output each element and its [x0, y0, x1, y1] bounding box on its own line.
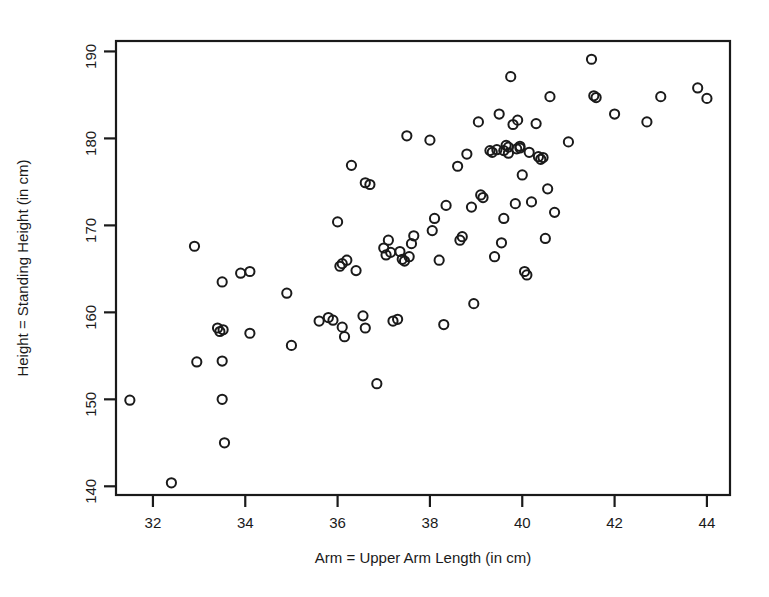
- data-point: [587, 55, 596, 64]
- data-point: [245, 267, 254, 276]
- data-point: [441, 201, 450, 210]
- data-point: [495, 109, 504, 118]
- y-tick-label-160: 160: [82, 305, 99, 330]
- data-point: [361, 323, 370, 332]
- data-point: [499, 214, 508, 223]
- data-point: [532, 119, 541, 128]
- x-tick-label-40: 40: [514, 514, 531, 531]
- data-point: [490, 252, 499, 261]
- data-point: [428, 226, 437, 235]
- data-point: [218, 277, 227, 286]
- scatter-plot-figure: 140150160170180190 32343638404244 Arm = …: [0, 0, 769, 597]
- data-point: [245, 329, 254, 338]
- data-point: [167, 478, 176, 487]
- data-point: [702, 94, 711, 103]
- data-points: [125, 55, 711, 488]
- data-point: [425, 136, 434, 145]
- data-point: [372, 379, 381, 388]
- data-point: [384, 236, 393, 245]
- plot-canvas: 140150160170180190 32343638404244 Arm = …: [0, 0, 769, 597]
- y-tick-label-190: 190: [82, 44, 99, 69]
- data-point: [693, 83, 702, 92]
- y-tick-label-150: 150: [82, 392, 99, 417]
- data-point: [282, 289, 291, 298]
- y-axis-tick-labels: 140150160170180190: [82, 44, 99, 504]
- data-point: [430, 214, 439, 223]
- data-point: [469, 299, 478, 308]
- data-point: [218, 356, 227, 365]
- data-point: [462, 149, 471, 158]
- plot-frame-box: [116, 41, 730, 495]
- data-point: [340, 332, 349, 341]
- y-axis-title: Height = Standing Height (in cm): [14, 159, 31, 376]
- x-tick-label-36: 36: [329, 514, 346, 531]
- data-point: [218, 395, 227, 404]
- y-tick-label-140: 140: [82, 479, 99, 504]
- x-axis-tickmarks: [153, 495, 707, 507]
- y-axis-tickmarks: [104, 51, 116, 486]
- data-point: [315, 316, 324, 325]
- x-axis-tick-labels: 32343638404244: [145, 514, 716, 531]
- data-point: [453, 162, 462, 171]
- x-tick-label-42: 42: [606, 514, 623, 531]
- data-point: [287, 341, 296, 350]
- data-point: [467, 203, 476, 212]
- x-tick-label-32: 32: [145, 514, 162, 531]
- data-point: [610, 109, 619, 118]
- data-point: [351, 266, 360, 275]
- data-point: [236, 269, 245, 278]
- data-point: [335, 262, 344, 271]
- data-point: [402, 131, 411, 140]
- data-point: [190, 242, 199, 251]
- data-point: [358, 311, 367, 320]
- data-point: [497, 238, 506, 247]
- data-point: [511, 199, 520, 208]
- x-axis-title: Arm = Upper Arm Length (in cm): [315, 549, 531, 566]
- data-point: [220, 438, 229, 447]
- data-point: [439, 320, 448, 329]
- data-point: [192, 357, 201, 366]
- x-tick-label-44: 44: [699, 514, 716, 531]
- axis-frame: [116, 41, 730, 495]
- data-point: [525, 148, 534, 157]
- data-point: [656, 92, 665, 101]
- x-tick-label-38: 38: [422, 514, 439, 531]
- data-point: [527, 197, 536, 206]
- data-point: [518, 170, 527, 179]
- data-point: [564, 137, 573, 146]
- data-point: [543, 184, 552, 193]
- data-point: [541, 234, 550, 243]
- data-point: [347, 161, 356, 170]
- data-point: [338, 323, 347, 332]
- data-point: [478, 193, 487, 202]
- x-tick-label-34: 34: [237, 514, 254, 531]
- data-point: [550, 208, 559, 217]
- data-point: [435, 256, 444, 265]
- data-point: [125, 396, 134, 405]
- y-tick-label-180: 180: [82, 131, 99, 156]
- data-point: [474, 117, 483, 126]
- data-point: [333, 217, 342, 226]
- data-point: [642, 117, 651, 126]
- data-point: [545, 92, 554, 101]
- data-point: [506, 72, 515, 81]
- y-tick-label-170: 170: [82, 218, 99, 243]
